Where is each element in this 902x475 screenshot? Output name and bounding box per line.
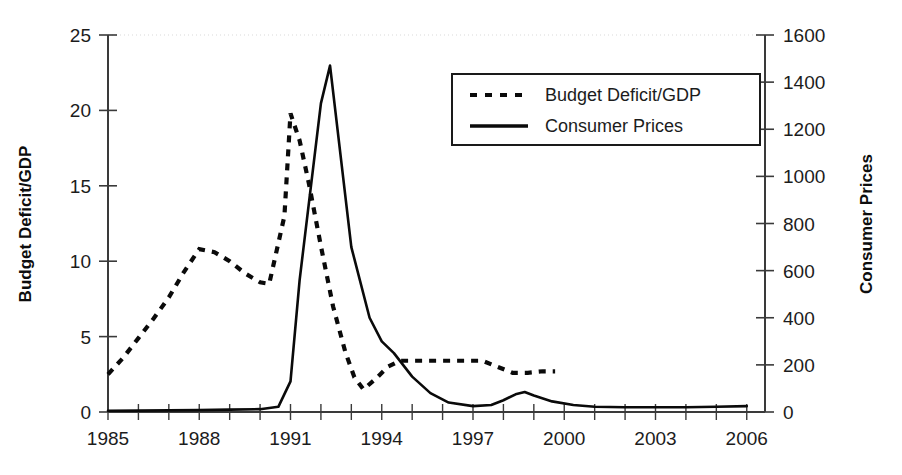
right-tick-label-600: 600 [783,261,815,282]
left-tick-label-25: 25 [70,25,91,46]
x-tick-label-2006: 2006 [726,428,768,449]
right-tick-label-1000: 1000 [783,166,825,187]
right-tick-label-800: 800 [783,214,815,235]
right-tick-label-1600: 1600 [783,25,825,46]
left-tick-label-20: 20 [70,100,91,121]
legend-label-budget-deficit: Budget Deficit/GDP [545,85,701,105]
left-tick-label-15: 15 [70,176,91,197]
x-tick-label-2003: 2003 [634,428,676,449]
legend-label-consumer-prices: Consumer Prices [545,116,683,136]
right-tick-label-1400: 1400 [783,72,825,93]
left-axis-title: Budget Deficit/GDP [16,146,35,303]
left-tick-label-10: 10 [70,251,91,272]
right-tick-label-1200: 1200 [783,119,825,140]
x-tick-label-1988: 1988 [178,428,220,449]
x-tick-label-1991: 1991 [269,428,311,449]
left-tick-label-5: 5 [80,327,91,348]
right-tick-label-400: 400 [783,308,815,329]
right-tick-label-200: 200 [783,355,815,376]
line-chart-figure: 0510152025 02004006008001000120014001600… [0,0,902,475]
left-tick-label-0: 0 [80,402,91,423]
x-tick-label-2000: 2000 [543,428,585,449]
right-tick-label-0: 0 [783,402,794,423]
x-tick-label-1994: 1994 [361,428,404,449]
chart-legend[interactable]: Budget Deficit/GDP Consumer Prices [452,74,760,145]
right-axis-title: Consumer Prices [857,154,876,294]
x-tick-label-1997: 1997 [452,428,494,449]
x-tick-label-1985: 1985 [87,428,129,449]
chart-container: 0510152025 02004006008001000120014001600… [0,0,902,475]
